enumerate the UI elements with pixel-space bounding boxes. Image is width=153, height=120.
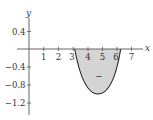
x-tick-label: 6 <box>113 52 118 62</box>
x-tick-label: 5 <box>100 52 105 62</box>
x-tick-label: 2 <box>56 52 61 62</box>
y-tick-label: −0.8 <box>5 80 26 90</box>
negative-sign-annotation: − <box>95 71 103 81</box>
x-tick-label: 1 <box>41 52 46 62</box>
y-tick-label: −1.2 <box>5 98 26 108</box>
y-tick-label: −0.4 <box>5 62 26 72</box>
y-axis-label: y <box>25 8 32 18</box>
x-tick-label: 3 <box>69 52 74 62</box>
x-tick-label: 4 <box>85 52 90 62</box>
y-tick-label: 0.4 <box>12 27 26 37</box>
x-axis-label: x <box>145 43 150 53</box>
chart: 1 2 3 4 5 6 7 0.4 −0.4 −0.8 −1.2 x y − <box>0 0 153 120</box>
y-tick-labels: 0.4 −0.4 −0.8 −1.2 <box>5 27 26 109</box>
x-tick-label: 7 <box>129 52 134 62</box>
